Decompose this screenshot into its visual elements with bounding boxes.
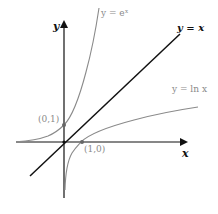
identity-line [30,34,180,176]
point-0-1-label: (0,1) [38,114,59,124]
point-1-0-label: (1,0) [84,144,105,154]
x-axis-label: x [182,147,189,160]
exp-curve-label: y = eˣ [101,8,129,18]
y-axis-label: y [53,20,59,33]
origin-point [62,140,65,143]
ln-curve-label: y = ln x [172,84,207,94]
point-0-1 [62,123,66,127]
inverse-functions-diagram: y x y = eˣ y = x y = ln x (0,1) (1,0) [0,0,218,214]
identity-line-label: y = x [177,22,204,33]
